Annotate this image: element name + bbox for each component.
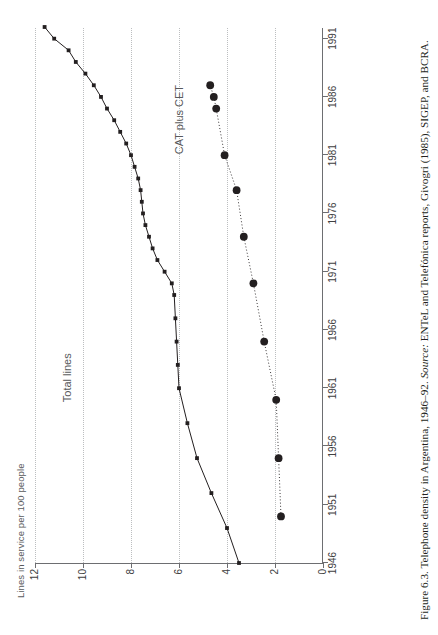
series-line (210, 85, 281, 516)
data-point (141, 211, 145, 215)
data-point (233, 186, 241, 194)
data-point (67, 48, 71, 52)
plot-inner: 024681012 194619511956196119661971197619… (35, 28, 322, 563)
data-point (212, 104, 220, 112)
y-tick-label: 10 (77, 569, 88, 597)
y-tick-label: 2 (269, 569, 280, 597)
data-point (84, 71, 88, 75)
data-point (250, 279, 258, 287)
data-point (174, 316, 178, 320)
x-tick-mark (323, 154, 328, 155)
y-tick-label: 6 (173, 569, 184, 597)
y-tick-mark (131, 563, 132, 568)
x-tick-label: 1976 (327, 202, 338, 224)
data-point (210, 491, 214, 495)
x-tick-label: 1961 (327, 377, 338, 399)
y-tick-mark (227, 563, 228, 568)
data-point (74, 60, 78, 64)
x-tick-mark (323, 562, 328, 563)
data-point (118, 129, 122, 133)
y-tick-mark (83, 563, 84, 568)
data-point (124, 141, 128, 145)
data-point (112, 118, 116, 122)
data-point (237, 561, 241, 565)
x-tick-label: 1956 (327, 435, 338, 457)
chart-area: Lines in service per 100 people 02468101… (13, 12, 369, 612)
data-point (151, 246, 155, 250)
data-point (99, 95, 103, 99)
x-tick-mark (323, 95, 328, 96)
data-point (176, 363, 180, 367)
x-tick-label: 1991 (327, 27, 338, 49)
chart-rotor: Lines in service per 100 people 02468101… (13, 12, 369, 612)
x-tick-mark (323, 270, 328, 271)
caption-source-body: ENTeL and Telefónica reports, Givogri (1… (418, 40, 430, 344)
x-tick-label: 1971 (327, 260, 338, 282)
data-point (210, 93, 218, 101)
data-point (43, 25, 47, 29)
plot-frame: 024681012 194619511956196119661971197619… (35, 28, 323, 564)
x-tick-label: 1951 (327, 493, 338, 515)
series-label-total-lines: Total lines (61, 353, 73, 402)
data-point (275, 454, 283, 462)
data-point (277, 512, 285, 520)
x-tick-mark (323, 503, 328, 504)
data-point (240, 232, 248, 240)
x-tick-label: 1981 (327, 144, 338, 166)
data-point (260, 337, 268, 345)
data-point (147, 234, 151, 238)
data-point (139, 188, 143, 192)
data-point (133, 164, 137, 168)
data-point (136, 176, 140, 180)
data-point (140, 199, 144, 203)
series-label-cat-plus-cet: CAT plus CET (173, 84, 185, 153)
data-point (186, 421, 190, 425)
data-point (177, 386, 181, 390)
data-point (163, 269, 167, 273)
data-point (206, 81, 214, 89)
caption-source-lead: Source: (418, 344, 430, 378)
data-point (170, 281, 174, 285)
figure-stage: Lines in service per 100 people 02468101… (0, 0, 438, 635)
x-tick-mark (323, 37, 328, 38)
x-tick-label: 1946 (327, 551, 338, 573)
y-tick-mark (323, 563, 324, 568)
data-point (92, 83, 96, 87)
y-tick-label: 8 (125, 569, 136, 597)
series-line (45, 27, 239, 563)
x-tick-mark (323, 328, 328, 329)
data-point (175, 339, 179, 343)
data-point (144, 223, 148, 227)
data-point (52, 36, 56, 40)
caption-prefix: Figure 6.3. Telephone density in Argenti… (418, 379, 430, 620)
data-point (272, 395, 280, 403)
y-axis-title: Lines in service per 100 people (15, 463, 26, 598)
x-tick-mark (323, 212, 328, 213)
y-tick-label: 4 (221, 569, 232, 597)
figure-caption: Figure 6.3. Telephone density in Argenti… (418, 0, 430, 620)
x-tick-label: 1966 (327, 318, 338, 340)
x-tick-label: 1986 (327, 85, 338, 107)
y-tick-mark (35, 563, 36, 568)
data-point (221, 151, 229, 159)
data-point (105, 106, 109, 110)
data-point (172, 293, 176, 297)
data-point (195, 456, 199, 460)
x-tick-mark (323, 387, 328, 388)
x-tick-mark (323, 445, 328, 446)
data-point (156, 258, 160, 262)
y-tick-mark (275, 563, 276, 568)
data-point (129, 153, 133, 157)
y-tick-mark (179, 563, 180, 568)
y-tick-label: 12 (29, 569, 40, 597)
data-point (225, 526, 229, 530)
